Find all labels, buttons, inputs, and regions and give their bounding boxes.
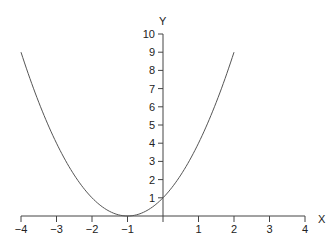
x-tick-label: 3	[266, 223, 272, 235]
x-axis-label: X	[318, 213, 326, 225]
y-tick-label: 2	[149, 174, 155, 186]
y-tick-label: 8	[149, 64, 155, 76]
x-tick-label: −3	[50, 223, 63, 235]
axes	[21, 34, 305, 222]
y-tick-label: 7	[149, 83, 155, 95]
x-tick-label: 2	[231, 223, 237, 235]
parabola-chart: −4−3−2−11234 12345678910 X Y	[0, 0, 336, 248]
y-tick-label: 4	[149, 137, 155, 149]
y-tick-label: 3	[149, 155, 155, 167]
x-tick-label: −4	[15, 223, 28, 235]
y-tick-label: 5	[149, 119, 155, 131]
y-tick-label: 9	[149, 46, 155, 58]
y-tick-label: 10	[143, 28, 155, 40]
y-tick-label: 1	[149, 192, 155, 204]
x-tick-label: −1	[121, 223, 134, 235]
y-axis-label: Y	[159, 15, 167, 27]
y-axis-ticks: 12345678910	[143, 28, 163, 204]
x-tick-label: −2	[86, 223, 99, 235]
x-tick-label: 4	[302, 223, 308, 235]
parabola-curve	[21, 52, 234, 216]
x-axis-ticks: −4−3−2−11234	[15, 216, 308, 235]
x-tick-label: 1	[195, 223, 201, 235]
y-tick-label: 6	[149, 101, 155, 113]
